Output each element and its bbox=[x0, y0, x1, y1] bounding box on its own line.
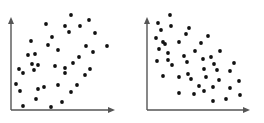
data-point bbox=[163, 42, 167, 46]
data-point bbox=[71, 61, 75, 65]
data-point bbox=[192, 92, 196, 96]
data-point bbox=[49, 105, 53, 109]
data-point bbox=[228, 69, 232, 73]
x-axis-arrow-icon bbox=[243, 107, 250, 113]
data-point bbox=[168, 13, 172, 17]
data-point bbox=[187, 26, 191, 30]
data-point bbox=[211, 99, 215, 103]
data-point bbox=[63, 24, 67, 28]
data-point bbox=[17, 67, 21, 71]
data-point bbox=[156, 21, 160, 25]
data-point bbox=[18, 89, 22, 93]
data-point bbox=[170, 63, 174, 67]
data-point bbox=[75, 83, 79, 87]
data-point bbox=[197, 84, 201, 88]
data-point bbox=[26, 53, 30, 57]
data-point bbox=[32, 68, 36, 72]
data-point bbox=[34, 97, 38, 101]
data-point bbox=[56, 83, 60, 87]
data-point bbox=[29, 39, 33, 43]
data-point bbox=[53, 64, 57, 68]
data-point bbox=[78, 24, 82, 28]
data-point bbox=[186, 72, 190, 76]
data-point bbox=[228, 86, 232, 90]
data-point bbox=[69, 13, 73, 17]
data-point bbox=[30, 62, 34, 66]
data-point bbox=[218, 49, 222, 53]
data-point bbox=[212, 62, 216, 66]
data-point bbox=[67, 30, 71, 34]
data-point bbox=[42, 85, 46, 89]
data-point bbox=[36, 63, 40, 67]
data-point bbox=[93, 31, 97, 35]
data-point bbox=[14, 82, 18, 86]
data-point bbox=[238, 93, 242, 97]
y-axis-arrow-icon bbox=[8, 17, 14, 24]
data-point bbox=[50, 35, 54, 39]
data-point bbox=[215, 68, 219, 72]
data-point bbox=[199, 41, 203, 45]
data-point bbox=[91, 50, 95, 54]
data-point bbox=[84, 44, 88, 48]
data-point bbox=[206, 34, 210, 38]
data-point bbox=[202, 67, 206, 71]
data-point bbox=[155, 59, 159, 63]
data-point bbox=[189, 77, 193, 81]
data-point bbox=[182, 54, 186, 58]
data-point bbox=[217, 78, 221, 82]
data-point bbox=[21, 104, 25, 108]
data-point bbox=[60, 100, 64, 104]
data-point bbox=[105, 44, 109, 48]
data-point bbox=[161, 74, 165, 78]
data-point bbox=[204, 75, 208, 79]
data-point bbox=[193, 49, 197, 53]
scatter-plots-canvas bbox=[0, 0, 264, 123]
data-point bbox=[63, 71, 67, 75]
data-point bbox=[177, 75, 181, 79]
data-point bbox=[169, 24, 173, 28]
scatter-chart-positive bbox=[8, 13, 115, 113]
data-point bbox=[237, 79, 241, 83]
data-point bbox=[21, 71, 25, 75]
data-point bbox=[166, 58, 170, 62]
scatter-plots-figure bbox=[0, 0, 264, 123]
data-point bbox=[201, 57, 205, 61]
y-axis-arrow-icon bbox=[144, 17, 150, 24]
data-point bbox=[202, 89, 206, 93]
data-point bbox=[33, 52, 37, 56]
data-point bbox=[63, 66, 67, 70]
scatter-chart-negative bbox=[144, 13, 250, 113]
data-point bbox=[184, 32, 188, 36]
data-point bbox=[177, 91, 181, 95]
data-point bbox=[232, 61, 236, 65]
data-point bbox=[154, 36, 158, 40]
data-point bbox=[211, 85, 215, 89]
data-point bbox=[177, 40, 181, 44]
data-point bbox=[83, 73, 87, 77]
data-point bbox=[56, 48, 60, 52]
data-point bbox=[44, 22, 48, 26]
data-point bbox=[157, 47, 161, 51]
data-point bbox=[36, 87, 40, 91]
data-point bbox=[88, 67, 92, 71]
data-point bbox=[166, 51, 170, 55]
data-point bbox=[185, 60, 189, 64]
data-point bbox=[159, 28, 163, 32]
data-point bbox=[46, 43, 50, 47]
data-point bbox=[209, 55, 213, 59]
x-axis-arrow-icon bbox=[108, 107, 115, 113]
data-point bbox=[77, 55, 81, 59]
data-point bbox=[87, 18, 91, 22]
data-point bbox=[224, 97, 228, 101]
data-point bbox=[69, 90, 73, 94]
